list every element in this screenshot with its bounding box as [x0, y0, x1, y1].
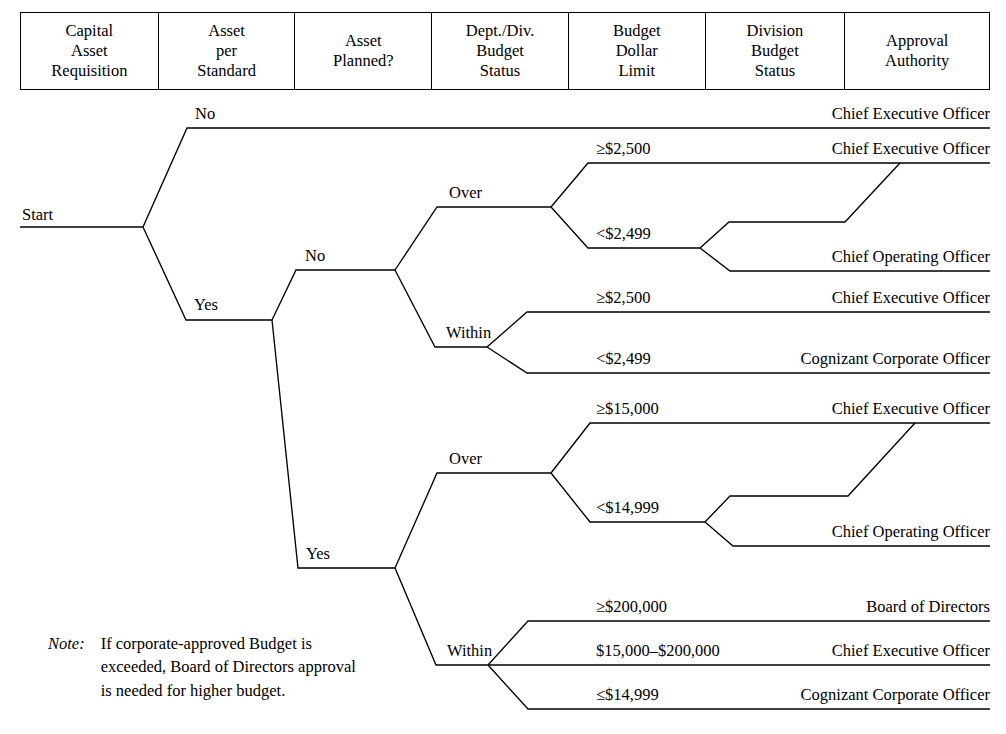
- label-standard-yes: Yes: [194, 297, 218, 314]
- label-authority-yes-within-low: Cognizant Corporate Officer: [690, 687, 990, 704]
- label-authority-no-within-low: Cognizant Corporate Officer: [690, 351, 990, 368]
- note-line: exceeded, Board of Directors approval: [101, 655, 356, 678]
- label-no-within: Within: [446, 325, 491, 342]
- label-yes-over: Over: [449, 451, 482, 468]
- label-planned-yes: Yes: [306, 546, 330, 563]
- note-line: If corporate-approved Budget is: [101, 632, 356, 655]
- label-limit-no-over-low: <$2,499: [596, 226, 651, 243]
- label-authority-no-over-high: Chief Executive Officer: [690, 141, 990, 158]
- label-authority-not-per-standard: Chief Executive Officer: [690, 106, 990, 123]
- branch-yes-over-low-division-over: [705, 423, 915, 522]
- branch-no-over: [395, 207, 551, 270]
- branch-no-over-high: [551, 163, 990, 207]
- note-label: Note:: [48, 632, 85, 655]
- label-limit-no-over-high: ≥$2,500: [596, 141, 650, 158]
- label-limit-yes-within-low: ≤$14,999: [596, 687, 659, 704]
- label-authority-yes-over-high: Chief Executive Officer: [690, 401, 990, 418]
- label-limit-yes-within-high: ≥$200,000: [596, 599, 667, 616]
- note-text: If corporate-approved Budget is exceeded…: [101, 632, 356, 702]
- label-start: Start: [22, 207, 53, 224]
- branch-planned-yes: [272, 320, 395, 568]
- decision-tree-page: Capital Asset Requisition Asset per Stan…: [0, 0, 1006, 734]
- branch-no-within-high: [487, 312, 990, 347]
- note-line: is needed for higher budget.: [101, 679, 356, 702]
- label-no-over: Over: [449, 185, 482, 202]
- label-limit-yes-over-high: ≥$15,000: [596, 401, 659, 418]
- branch-yes-over: [395, 473, 551, 568]
- label-authority-yes-over-low: Chief Operating Officer: [690, 524, 990, 541]
- branch-yes-over-high: [551, 423, 990, 473]
- branch-planned-no: [272, 270, 395, 320]
- label-limit-no-within-low: <$2,499: [596, 351, 651, 368]
- label-standard-no: No: [195, 106, 215, 123]
- label-yes-within: Within: [447, 643, 492, 660]
- label-authority-yes-within-high: Board of Directors: [690, 599, 990, 616]
- label-authority-no-within-high: Chief Executive Officer: [690, 290, 990, 307]
- label-limit-yes-over-low: <$14,999: [596, 500, 659, 517]
- branch-no-over-low-division-over: [700, 163, 900, 248]
- label-planned-no: No: [305, 248, 325, 265]
- label-authority-yes-within-mid: Chief Executive Officer: [690, 643, 990, 660]
- note-block: Note: If corporate-approved Budget is ex…: [48, 632, 356, 702]
- label-limit-no-within-high: ≥$2,500: [596, 290, 650, 307]
- label-authority-no-over-low: Chief Operating Officer: [690, 249, 990, 266]
